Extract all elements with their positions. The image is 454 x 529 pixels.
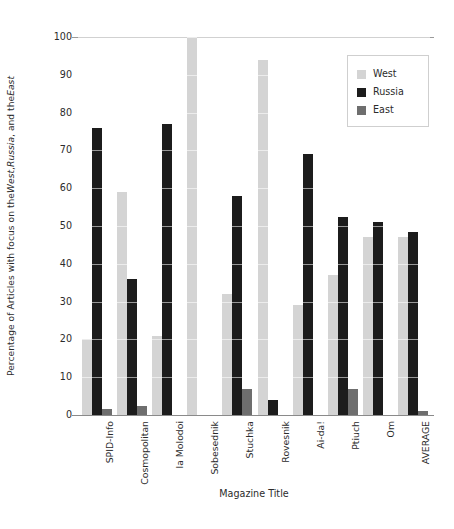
bar-russia bbox=[268, 400, 278, 415]
y-tick-30: 30 bbox=[50, 297, 72, 307]
x-tick-label: Cosmopolitan bbox=[137, 421, 151, 517]
x-tick-label: la Molodoi bbox=[172, 421, 186, 517]
bar-russia bbox=[338, 217, 348, 415]
y-axis-title-part-2: , bbox=[6, 167, 16, 170]
bar-russia bbox=[303, 154, 313, 415]
y-axis-title-part-4: , and the bbox=[6, 96, 16, 137]
y-axis-title: Percentage of Articles with focus on the… bbox=[0, 37, 22, 415]
legend-label: West bbox=[373, 69, 397, 79]
bar-russia bbox=[162, 124, 172, 415]
x-tick-label: Sobesednik bbox=[207, 421, 221, 517]
bar-east bbox=[137, 406, 147, 415]
bar-west bbox=[363, 237, 373, 415]
bar-west bbox=[187, 37, 197, 415]
x-axis-title: Magazine Title bbox=[78, 488, 430, 499]
y-tick-100: 100 bbox=[50, 32, 72, 42]
bar-russia bbox=[127, 279, 137, 415]
y-axis-tick-labels: 0102030405060708090100 bbox=[46, 0, 72, 529]
bar-east bbox=[242, 389, 252, 415]
legend-swatch-icon bbox=[357, 106, 366, 115]
bar-group bbox=[293, 37, 323, 415]
y-tick-70: 70 bbox=[50, 146, 72, 156]
bar-west bbox=[398, 237, 408, 415]
bar-west bbox=[258, 60, 268, 415]
legend-swatch-icon bbox=[357, 70, 366, 79]
bar-east bbox=[348, 389, 358, 415]
y-tick-90: 90 bbox=[50, 70, 72, 80]
y-tick-80: 80 bbox=[50, 108, 72, 118]
x-tick-label: Ptiuch bbox=[348, 421, 362, 517]
bar-west bbox=[222, 294, 232, 415]
bar-russia bbox=[408, 232, 418, 415]
y-axis-title-part-1: West bbox=[6, 170, 16, 193]
y-tick-60: 60 bbox=[50, 183, 72, 193]
legend-label: Russia bbox=[373, 87, 404, 97]
chart-legend: WestRussiaEast bbox=[347, 55, 429, 127]
bar-west bbox=[82, 339, 92, 415]
bar-group bbox=[258, 37, 288, 415]
bar-russia bbox=[373, 222, 383, 415]
legend-label: East bbox=[373, 105, 394, 115]
y-tick-50: 50 bbox=[50, 221, 72, 231]
x-tick-label: Rovesnik bbox=[278, 421, 292, 517]
bar-west bbox=[152, 336, 162, 415]
legend-swatch-icon bbox=[357, 88, 366, 97]
bar-west bbox=[293, 305, 303, 415]
y-tick-10: 10 bbox=[50, 372, 72, 382]
bar-chart: Percentage of Articles with focus on the… bbox=[0, 0, 454, 529]
y-axis-title-part-0: Percentage of Articles with focus on the bbox=[6, 193, 16, 376]
bar-group bbox=[117, 37, 147, 415]
legend-item: East bbox=[357, 101, 428, 119]
x-tick-label: AVERAGE bbox=[418, 421, 432, 517]
y-axis-title-part-5: East bbox=[6, 76, 16, 96]
x-tick-label: Ai-da! bbox=[313, 421, 327, 517]
bar-group bbox=[82, 37, 112, 415]
y-tick-20: 20 bbox=[50, 335, 72, 345]
y-axis-title-part-3: Russia bbox=[6, 137, 16, 167]
x-tick-label: SPID-Info bbox=[102, 421, 116, 517]
bar-group bbox=[152, 37, 182, 415]
x-axis-line bbox=[72, 415, 434, 416]
x-tick-label: Om bbox=[383, 421, 397, 517]
bar-russia bbox=[232, 196, 242, 415]
bar-group bbox=[187, 37, 217, 415]
legend-item: Russia bbox=[357, 83, 428, 101]
legend-item: West bbox=[357, 65, 428, 83]
y-tick-40: 40 bbox=[50, 259, 72, 269]
bar-group bbox=[222, 37, 252, 415]
bar-west bbox=[117, 192, 127, 415]
bar-russia bbox=[92, 128, 102, 415]
x-tick-label: Stuchka bbox=[242, 421, 256, 517]
bar-west bbox=[328, 275, 338, 415]
y-tick-0: 0 bbox=[50, 410, 72, 420]
